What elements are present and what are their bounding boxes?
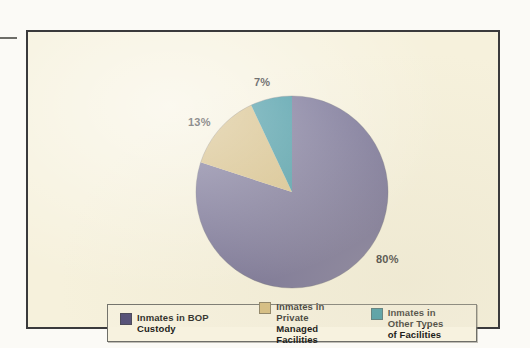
legend-item-private-managed: Inmates in Private Managed Facilities (253, 301, 364, 345)
pie-label-private-managed: 13% (188, 116, 211, 128)
legend-swatch-icon-bop-custody (120, 313, 132, 325)
legend-label-bop-custody: Inmates in BOP Custody (137, 312, 247, 334)
legend-item-bop-custody: Inmates in BOP Custody (114, 312, 253, 334)
legend-item-other-types: Inmates in Other Types of Facilities (365, 307, 470, 340)
pie-chart-svg (194, 94, 390, 290)
legend-swatch-icon-other-types (371, 308, 383, 320)
legend-label-private-managed: Inmates in Private Managed Facilities (276, 301, 358, 345)
crop-mark-icon (0, 37, 17, 39)
pie-label-other-types: 7% (254, 76, 270, 88)
legend-swatch-icon-private-managed (259, 302, 271, 314)
figure-frame: 7% 13% 80% Inmates in BOP Custody Inmate… (26, 30, 500, 329)
chart-legend: Inmates in BOP Custody Inmates in Privat… (107, 304, 477, 342)
legend-label-other-types: Inmates in Other Types of Facilities (388, 307, 464, 340)
pie-chart (194, 94, 390, 290)
pie-label-bop-custody: 80% (376, 253, 399, 265)
